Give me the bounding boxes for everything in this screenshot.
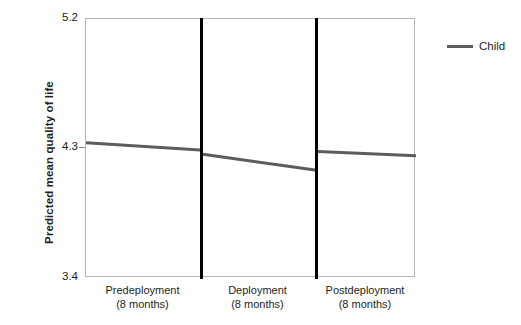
series-layer <box>86 19 416 278</box>
legend-swatch-child <box>447 45 473 48</box>
x-axis-category-name: Deployment <box>200 283 315 297</box>
x-axis-category-sublabel: (8 months) <box>200 297 315 311</box>
legend-label-child: Child <box>479 40 505 52</box>
quality-of-life-line-chart: Predicted mean quality of life 5.2 4.3 3… <box>0 0 521 325</box>
series-line-child <box>86 143 416 170</box>
x-axis-category-predeployment: Predeployment (8 months) <box>85 283 200 311</box>
x-axis-category-sublabel: (8 months) <box>315 297 415 311</box>
x-axis-category-name: Postdeployment <box>315 283 415 297</box>
series-segment <box>318 151 416 155</box>
series-segment <box>86 143 200 150</box>
x-axis-category-postdeployment: Postdeployment (8 months) <box>315 283 415 311</box>
y-axis-tick-label-top: 5.2 <box>56 11 78 23</box>
series-segment <box>203 154 315 170</box>
x-axis-category-deployment: Deployment (8 months) <box>200 283 315 311</box>
y-axis-tick-label-bottom: 3.4 <box>56 270 78 282</box>
x-axis-category-name: Predeployment <box>85 283 200 297</box>
x-axis-category-sublabel: (8 months) <box>85 297 200 311</box>
plot-area <box>85 18 415 277</box>
legend: Child <box>447 40 505 52</box>
y-axis-tick-label-mid: 4.3 <box>56 140 78 152</box>
